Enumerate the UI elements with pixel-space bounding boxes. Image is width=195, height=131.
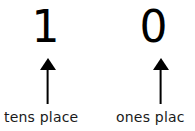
place-column-ones: 0 ones plac [100, 0, 195, 131]
up-arrow-icon [152, 57, 170, 109]
place-value-diagram: 1 tens place 0 ones plac [0, 0, 195, 131]
place-column-tens: 1 tens place [0, 0, 95, 131]
up-arrow-icon [39, 57, 57, 109]
digit-tens: 1 [0, 4, 95, 50]
label-ones-place: ones plac [116, 107, 185, 127]
label-tens-place: tens place [4, 107, 78, 127]
digit-ones: 0 [100, 4, 195, 50]
